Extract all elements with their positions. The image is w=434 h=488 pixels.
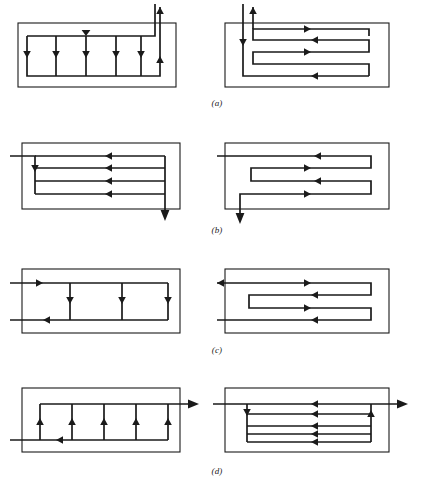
figure-row-c: (c) [0,248,434,348]
caption-d: (d) [0,466,434,476]
figure-row-a: (a) [0,2,434,97]
serpentine-exchanger-a-right [209,2,418,97]
cross-flow-baffled-exchanger-a-left [0,2,209,97]
cross-flow-exchanger-d-left [0,376,209,468]
serpentine-exchanger-c-right [209,248,418,348]
heat-exchanger-figure: (a) [0,0,434,488]
parallel-flow-exchanger-b-left [0,125,209,225]
serpentine-exchanger-b-right [209,125,418,225]
caption-b: (b) [0,225,434,235]
caption-c: (c) [0,345,434,355]
cross-flow-exchanger-c-left [0,248,209,348]
parallel-flow-exchanger-d-right [209,376,418,468]
figure-row-b: (b) [0,125,434,225]
figure-row-d: (d) [0,376,434,468]
caption-a: (a) [0,98,434,108]
